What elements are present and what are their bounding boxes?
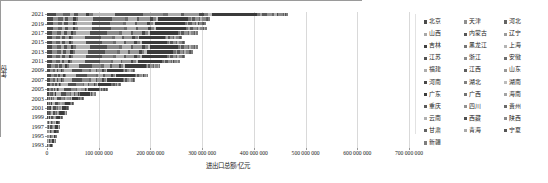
bar-segment — [156, 27, 186, 30]
legend-label: 吉林 — [429, 43, 441, 49]
bar-segment — [127, 27, 136, 30]
bar-segment — [93, 17, 111, 20]
legend-item-8[interactable]: 上海 — [504, 40, 544, 52]
legend-item-3[interactable]: 山西 — [424, 28, 464, 40]
y-tick-mark — [45, 24, 47, 25]
legend-item-2[interactable]: 河北 — [504, 16, 544, 28]
legend-divider — [415, 14, 416, 134]
legend-item-20[interactable]: 海南 — [504, 89, 544, 101]
legend-item-18[interactable]: 广东 — [424, 89, 464, 101]
legend-item-6[interactable]: 吉林 — [424, 40, 464, 52]
legend-item-23[interactable]: 贵州 — [504, 101, 544, 113]
bar-segment — [126, 55, 135, 58]
bar-segment — [184, 41, 185, 44]
y-tick-mark — [45, 127, 47, 128]
bar-segment — [134, 78, 135, 81]
bar-segment — [107, 69, 123, 72]
legend-item-26[interactable]: 陕西 — [504, 113, 544, 125]
legend-label: 北京 — [429, 19, 441, 25]
bar-segment — [110, 22, 123, 25]
legend-item-28[interactable]: 青海 — [464, 125, 504, 137]
bar-row — [47, 13, 289, 16]
bar-row — [47, 106, 69, 109]
bar-segment — [64, 78, 72, 81]
legend-item-5[interactable]: 辽宁 — [504, 28, 544, 40]
bar-segment — [56, 13, 63, 16]
legend-item-14[interactable]: 山东 — [504, 64, 544, 76]
bar-segment — [75, 50, 88, 53]
legend-item-4[interactable]: 内蒙古 — [464, 28, 504, 40]
bar-segment — [76, 45, 90, 48]
legend-label: 广东 — [429, 92, 441, 98]
legend-label: 贵州 — [509, 104, 521, 110]
y-tick-mark — [45, 89, 47, 90]
bar-segment — [122, 31, 131, 34]
legend-item-13[interactable]: 江西 — [464, 64, 504, 76]
legend-label: 上海 — [509, 43, 521, 49]
bar-segment — [137, 22, 147, 25]
bar-row — [47, 125, 59, 128]
bar-segment — [66, 74, 75, 77]
bar-segment — [76, 74, 87, 77]
bar-segment — [126, 22, 135, 25]
bar-segment — [178, 60, 179, 63]
bar-segment — [47, 13, 56, 16]
legend-item-11[interactable]: 安徽 — [504, 52, 544, 64]
legend-item-22[interactable]: 四川 — [464, 101, 504, 113]
legend-label: 陕西 — [509, 116, 521, 122]
bar-segment — [72, 78, 82, 81]
bar-segment — [184, 13, 199, 16]
legend-item-1[interactable]: 天津 — [464, 16, 504, 28]
legend-swatch-icon — [464, 69, 467, 72]
legend-label: 辽宁 — [509, 31, 521, 37]
legend-label: 黑龙江 — [469, 43, 487, 49]
legend-item-29[interactable]: 宁夏 — [504, 125, 544, 137]
bar-segment — [64, 69, 72, 72]
legend-item-17[interactable]: 湖南 — [504, 76, 544, 88]
legend-item-30[interactable]: 新疆 — [424, 137, 464, 149]
legend-item-10[interactable]: 浙江 — [464, 52, 504, 64]
bar-segment — [95, 92, 96, 95]
legend-item-15[interactable]: 河南 — [424, 76, 464, 88]
legend-item-16[interactable]: 湖北 — [464, 76, 504, 88]
bar-segment — [63, 13, 70, 16]
grid-line — [202, 12, 203, 148]
bar-row — [47, 22, 206, 25]
legend-item-25[interactable]: 西藏 — [464, 113, 504, 125]
bar-segment — [100, 60, 111, 63]
bar-row — [47, 116, 62, 119]
legend-swatch-icon — [504, 45, 507, 48]
legend-swatch-icon — [424, 129, 427, 132]
bar-segment — [112, 17, 125, 20]
bar-row — [47, 17, 210, 20]
bar-segment — [155, 22, 184, 25]
bar-row — [47, 102, 74, 105]
legend-item-24[interactable]: 云南 — [424, 113, 464, 125]
legend-item-27[interactable]: 甘肃 — [424, 125, 464, 137]
bar-segment — [204, 22, 206, 25]
legend-item-0[interactable]: 北京 — [424, 16, 464, 28]
bar-segment — [69, 64, 80, 67]
legend-label: 山东 — [509, 67, 521, 73]
legend-swatch-icon — [424, 141, 427, 144]
legend-swatch-icon — [464, 129, 467, 132]
y-tick-label: 2005 — [0, 86, 44, 92]
y-tick-mark — [45, 71, 47, 72]
x-tick-mark — [150, 148, 151, 150]
bar-segment — [73, 36, 86, 39]
legend-item-7[interactable]: 黑龙江 — [464, 40, 504, 52]
legend-item-9[interactable]: 江苏 — [424, 52, 464, 64]
bar-segment — [115, 13, 142, 16]
legend-swatch-icon — [504, 93, 507, 96]
bar-segment — [147, 50, 174, 53]
legend-swatch-icon — [464, 57, 467, 60]
legend-item-12[interactable]: 福建 — [424, 64, 464, 76]
bar-segment — [98, 83, 112, 86]
legend-item-19[interactable]: 广西 — [464, 89, 504, 101]
bar-segment — [92, 64, 101, 67]
bar-row — [47, 27, 207, 30]
bar-segment — [184, 55, 185, 58]
legend-label: 安徽 — [509, 55, 521, 61]
bar-segment — [111, 27, 124, 30]
legend-item-21[interactable]: 重庆 — [424, 101, 464, 113]
